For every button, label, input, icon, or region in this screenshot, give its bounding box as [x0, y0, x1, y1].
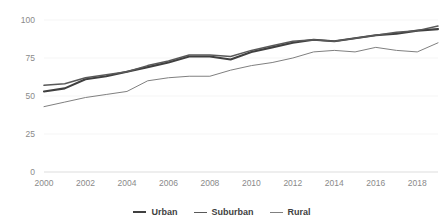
legend-label: Rural: [288, 207, 311, 217]
legend-swatch-urban-icon: [133, 211, 146, 213]
legend-label: Urban: [151, 207, 177, 217]
series-line-urban: [44, 29, 438, 91]
y-tick-label: 100: [21, 15, 35, 25]
x-tick-label: 2006: [159, 178, 178, 188]
x-tick-label: 2018: [408, 178, 427, 188]
y-tick-label: 0: [30, 167, 35, 177]
x-tick-label: 2016: [366, 178, 385, 188]
x-tick-label: 2014: [325, 178, 344, 188]
legend-swatch-suburban-icon: [194, 212, 207, 213]
chart-plot-area: 0255075100 20002002200420062008201020122…: [0, 0, 444, 221]
x-tick-label: 2000: [35, 178, 54, 188]
x-tick-label: 2002: [76, 178, 95, 188]
legend-item-suburban[interactable]: Suburban: [194, 207, 254, 217]
legend-item-urban[interactable]: Urban: [133, 207, 177, 217]
y-tick-label: 25: [26, 129, 36, 139]
x-tick-label: 2008: [200, 178, 219, 188]
x-axis-tick-labels: 2000200220042006200820102012201420162018: [35, 178, 427, 188]
x-tick-label: 2004: [117, 178, 136, 188]
chart-legend: UrbanSuburbanRural: [0, 207, 444, 217]
line-chart: 0255075100 20002002200420062008201020122…: [0, 0, 444, 221]
legend-swatch-rural-icon: [270, 212, 283, 213]
legend-item-rural[interactable]: Rural: [270, 207, 311, 217]
y-axis-tick-labels: 0255075100: [21, 15, 35, 177]
x-tick-label: 2010: [242, 178, 261, 188]
data-series-group: [44, 26, 438, 107]
y-tick-label: 50: [26, 91, 36, 101]
x-tick-label: 2012: [283, 178, 302, 188]
y-tick-label: 75: [26, 53, 36, 63]
legend-label: Suburban: [212, 207, 254, 217]
